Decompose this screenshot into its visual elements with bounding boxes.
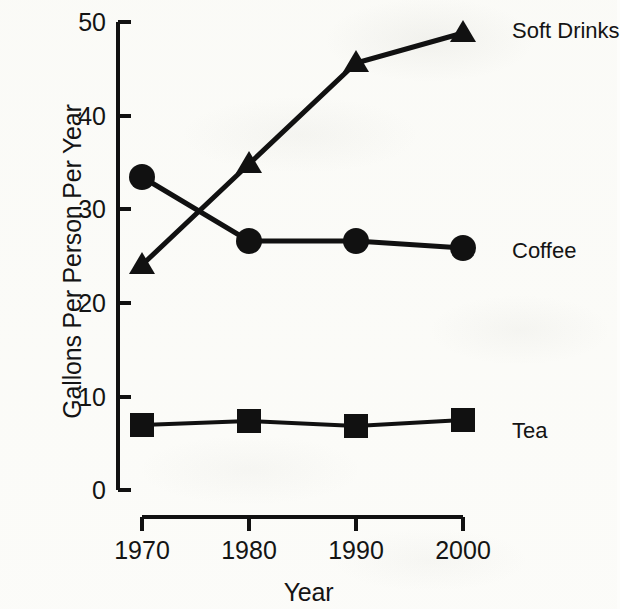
marker-coffee-1970 (129, 164, 155, 190)
y-axis-title: Gallons Per Person Per Year (58, 52, 87, 472)
x-axis-title: Year (0, 578, 617, 607)
series-coffee (129, 164, 476, 261)
y-tick-label-50: 50 (46, 8, 106, 37)
marker-tea-1990 (344, 414, 368, 438)
x-tick-label-1990: 1990 (301, 536, 411, 565)
x-tick-label-1980: 1980 (194, 536, 304, 565)
series-soft-drinks (129, 20, 476, 274)
series-label-coffee: Coffee (512, 238, 576, 264)
marker-tea-1980 (237, 409, 261, 433)
marker-tea-1970 (130, 413, 154, 437)
marker-soft-drinks-2000 (450, 20, 476, 42)
x-tick-label-2000: 2000 (408, 536, 518, 565)
marker-coffee-1990 (343, 228, 369, 254)
marker-coffee-1980 (236, 228, 262, 254)
x-axis (142, 517, 463, 531)
y-axis (118, 22, 131, 490)
marker-tea-2000 (451, 408, 475, 432)
series-tea (130, 408, 475, 438)
y-tick-label-0: 0 (46, 476, 106, 505)
marker-coffee-2000 (450, 235, 476, 261)
series-label-tea: Tea (512, 418, 547, 444)
x-tick-label-1970: 1970 (87, 536, 197, 565)
series-label-soft-drinks: Soft Drinks (512, 18, 620, 44)
